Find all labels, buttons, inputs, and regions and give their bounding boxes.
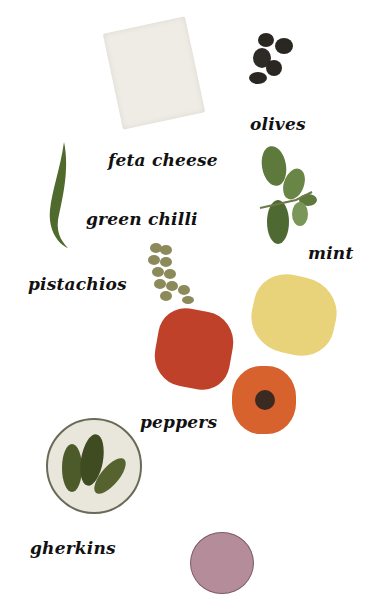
peppers-label: peppers <box>140 412 217 432</box>
mint-label: mint <box>308 243 353 263</box>
yellow-pepper-image <box>245 268 343 362</box>
gherkins-image <box>48 420 140 512</box>
mint-image <box>256 144 322 248</box>
olives-label: olives <box>250 114 306 134</box>
green-chilli-label: green chilli <box>86 209 198 229</box>
onion-image <box>190 532 254 594</box>
pepper-stem-icon <box>255 390 275 410</box>
orange-pepper-image <box>232 366 296 434</box>
gherkins-bowl-image <box>46 418 142 514</box>
olives-image <box>244 28 300 86</box>
gherkins-label: gherkins <box>30 538 116 558</box>
feta-cheese-label: feta cheese <box>108 150 218 170</box>
red-pepper-image <box>150 304 238 394</box>
pistachios-image <box>144 240 200 306</box>
feta-cheese-image <box>103 16 206 129</box>
green-chilli-image <box>44 140 74 250</box>
pistachios-label: pistachios <box>28 274 127 294</box>
